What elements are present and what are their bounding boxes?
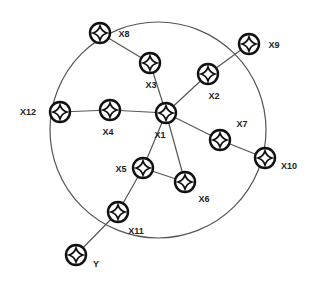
edges-layer	[60, 33, 265, 255]
node-label: X5	[115, 164, 126, 174]
node-label: X4	[102, 127, 113, 137]
node-label: X8	[118, 29, 129, 39]
node-x8[interactable]: X8	[90, 23, 130, 43]
network-diagram: X1X2X3X4X5X6X7X8X9X10X11X12Y	[0, 0, 312, 286]
node-label: X6	[198, 194, 209, 204]
node-x10[interactable]: X10	[255, 148, 297, 171]
node-x12[interactable]: X12	[20, 102, 70, 122]
node-x2[interactable]: X2	[198, 64, 220, 101]
node-label: X3	[145, 80, 156, 90]
node-x4[interactable]: X4	[100, 100, 120, 137]
node-y[interactable]: Y	[66, 245, 99, 269]
node-label: X9	[268, 40, 279, 50]
node-label: X1	[154, 130, 165, 140]
node-label: Y	[93, 259, 99, 269]
node-label: X10	[281, 161, 297, 171]
node-label: X12	[20, 107, 36, 117]
node-x1[interactable]: X1	[154, 103, 176, 140]
node-label: X7	[236, 119, 247, 129]
node-label: X11	[128, 226, 144, 236]
node-x7[interactable]: X7	[210, 119, 248, 150]
node-x9[interactable]: X9	[239, 34, 280, 54]
node-x5[interactable]: X5	[115, 158, 153, 178]
node-x6[interactable]: X6	[175, 172, 210, 204]
node-label: X2	[208, 91, 219, 101]
node-x11[interactable]: X11	[108, 202, 144, 236]
nodes-layer: X1X2X3X4X5X6X7X8X9X10X11X12Y	[20, 23, 297, 269]
